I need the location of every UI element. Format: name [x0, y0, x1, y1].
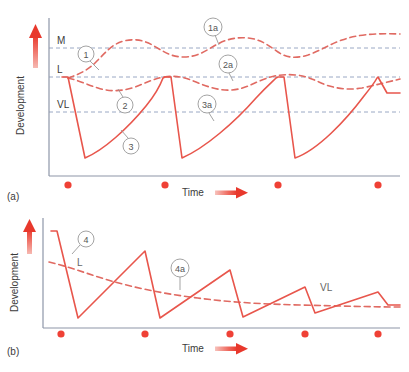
event-dot: [374, 181, 381, 188]
figure-background: [0, 0, 409, 372]
panel-b-level-label-vl: VL: [320, 282, 333, 293]
event-dot: [226, 330, 233, 337]
callout-1a-text: 1a: [208, 23, 218, 33]
callout-2a-text: 2a: [223, 60, 233, 70]
event-dot: [301, 330, 308, 337]
panel-b-y-axis-label: Development: [9, 253, 20, 312]
event-dot: [274, 181, 281, 188]
panel-b-level-label-l: L: [77, 257, 83, 268]
figure-container: Development M L VL 1 1a: [0, 0, 409, 372]
callout-1-text: 1: [83, 50, 88, 60]
callout-3a-text: 3a: [202, 100, 212, 110]
event-dot: [64, 181, 71, 188]
callout-4a-text: 4a: [175, 264, 185, 274]
panel-a-y-axis-label: Development: [15, 76, 26, 135]
panel-a-x-axis-label: Time: [182, 187, 204, 198]
event-dot: [57, 330, 64, 337]
panel-a-label: (a): [7, 191, 19, 202]
callout-3-text: 3: [128, 142, 133, 152]
event-dot: [161, 181, 168, 188]
panel-b-x-axis-label: Time: [182, 343, 204, 354]
callout-4-text: 4: [83, 235, 88, 245]
callout-2-text: 2: [122, 101, 127, 111]
panel-b-label: (b): [7, 346, 19, 357]
event-dot: [141, 330, 148, 337]
level-label-vl: VL: [57, 99, 70, 110]
event-dot: [374, 330, 381, 337]
level-label-m: M: [57, 35, 65, 46]
level-label-l: L: [57, 64, 63, 75]
figure-svg: Development M L VL 1 1a: [0, 0, 409, 372]
